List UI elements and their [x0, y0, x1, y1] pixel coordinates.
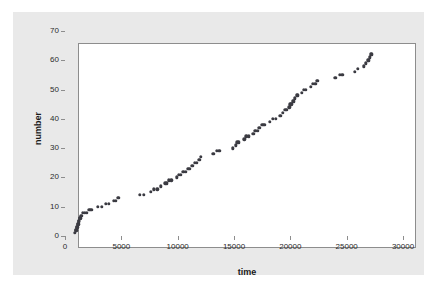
data-point	[73, 231, 76, 234]
x-tick-label: 0	[63, 243, 67, 251]
y-tick-label: 10	[37, 203, 59, 211]
x-axis-label: time	[238, 267, 257, 277]
x-tick-mark	[234, 236, 235, 240]
y-tick-mark	[61, 177, 65, 178]
x-tick-label: 30000	[392, 243, 414, 251]
y-tick-mark	[61, 60, 65, 61]
y-tick-mark	[61, 119, 65, 120]
x-tick-mark	[403, 236, 404, 240]
y-axis-label: number	[33, 112, 43, 145]
y-tick-mark	[61, 207, 65, 208]
x-tick-label: 5000	[112, 243, 130, 251]
plot-area	[78, 43, 416, 248]
y-tick-label: 20	[37, 173, 59, 181]
y-tick-label: 60	[37, 56, 59, 64]
x-tick-mark	[121, 236, 122, 240]
x-tick-label: 25000	[336, 243, 358, 251]
x-tick-mark	[65, 236, 66, 240]
y-tick-label: 70	[37, 27, 59, 35]
y-tick-mark	[61, 148, 65, 149]
y-tick-label: 30	[37, 144, 59, 152]
x-tick-label: 10000	[167, 243, 189, 251]
y-tick-mark	[61, 90, 65, 91]
y-tick-mark	[61, 31, 65, 32]
x-tick-label: 15000	[223, 243, 245, 251]
x-tick-mark	[290, 236, 291, 240]
chart-panel: 010203040506070 050001000015000200002500…	[13, 12, 424, 275]
figure-container: 010203040506070 050001000015000200002500…	[0, 0, 438, 289]
x-tick-mark	[178, 236, 179, 240]
x-tick-mark	[347, 236, 348, 240]
y-tick-label: 50	[37, 86, 59, 94]
y-tick-label: 0	[37, 232, 59, 240]
x-tick-label: 20000	[279, 243, 301, 251]
